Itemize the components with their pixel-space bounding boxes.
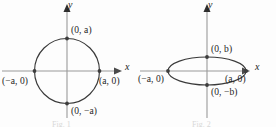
point-label-bottom: (0, −b) bbox=[211, 88, 238, 98]
point-left-dot bbox=[33, 69, 37, 73]
point-label-right: (a, 0) bbox=[99, 77, 120, 87]
point-top-dot bbox=[65, 37, 69, 41]
y-axis-label: y bbox=[68, 0, 73, 10]
figure-caption: Fig. 1 bbox=[52, 121, 71, 127]
point-label-top: (0, a) bbox=[71, 26, 92, 36]
y-axis-label: y bbox=[208, 0, 213, 10]
figure-ellipse: y x (0, b) (−a, 0) (a, 0) (0, −b) Fig. 2 bbox=[138, 0, 276, 127]
point-label-right: (a, 0) bbox=[225, 75, 246, 85]
point-bottom-dot bbox=[65, 102, 69, 106]
point-left-dot bbox=[166, 69, 170, 73]
figure-caption: Fig. 2 bbox=[192, 121, 211, 127]
point-top-dot bbox=[205, 55, 209, 59]
figure-circle: y x (0, a) (−a, 0) (a, 0) (0, −a) Fig. 1 bbox=[0, 0, 138, 127]
figure-panel: y x (0, a) (−a, 0) (a, 0) (0, −a) Fig. 1… bbox=[0, 0, 276, 127]
point-bottom-dot bbox=[205, 83, 209, 87]
point-label-left: (−a, 0) bbox=[2, 77, 28, 87]
point-label-bottom: (0, −a) bbox=[71, 107, 97, 117]
point-label-left: (−a, 0) bbox=[138, 75, 164, 85]
circle-graph-svg bbox=[0, 0, 138, 127]
point-label-top: (0, b) bbox=[211, 45, 232, 55]
x-axis-label: x bbox=[125, 62, 130, 72]
point-right-dot bbox=[98, 69, 102, 73]
x-axis-arrowhead-icon bbox=[114, 68, 122, 75]
point-right-dot bbox=[244, 69, 248, 73]
x-axis-label: x bbox=[255, 62, 260, 72]
